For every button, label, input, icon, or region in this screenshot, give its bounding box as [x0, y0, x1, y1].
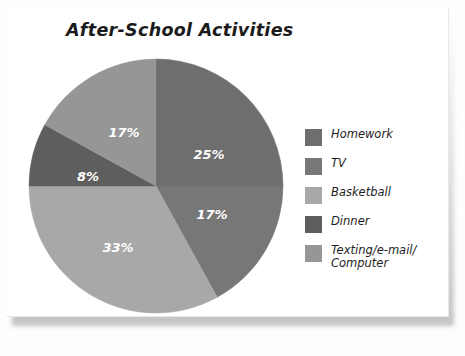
pie-chart: 25%17%33%8%17%	[28, 58, 284, 314]
chart-title: After-School Activities	[66, 20, 294, 40]
legend-item[interactable]: TV	[305, 157, 445, 175]
legend-item[interactable]: Dinner	[305, 215, 445, 233]
legend-swatch	[305, 187, 322, 204]
pie-slice-label: 17%	[196, 207, 227, 222]
legend-swatch	[305, 158, 322, 175]
legend-item-label: Dinner	[331, 215, 369, 228]
pie-slice-label: 8%	[77, 169, 99, 184]
pie-slice-label: 33%	[102, 240, 133, 255]
chart-legend: HomeworkTVBasketballDinnerTexting/e-mail…	[305, 128, 445, 270]
legend-swatch	[305, 245, 322, 262]
legend-item-label: Homework	[331, 128, 393, 141]
legend-item[interactable]: Homework	[305, 128, 445, 146]
legend-item-label: Texting/e-mail/ Computer	[331, 244, 416, 270]
legend-swatch	[305, 129, 322, 146]
pie-slice-label: 17%	[108, 125, 139, 140]
legend-item[interactable]: Texting/e-mail/ Computer	[305, 244, 445, 270]
legend-item-label: TV	[331, 157, 346, 170]
pie-slice[interactable]	[156, 59, 283, 186]
pie-slice-label: 25%	[193, 147, 224, 162]
legend-item[interactable]: Basketball	[305, 186, 445, 204]
chart-canvas: After-School Activities 25%17%33%8%17% H…	[0, 0, 465, 356]
legend-item-label: Basketball	[331, 186, 391, 199]
pie-chart-svg: 25%17%33%8%17%	[28, 58, 284, 314]
legend-swatch	[305, 216, 322, 233]
